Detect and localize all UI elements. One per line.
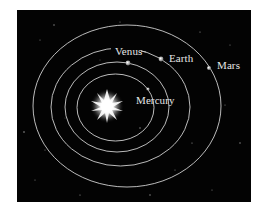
planet-mars (207, 66, 211, 70)
planet-earth (159, 57, 164, 62)
planet-venus (126, 61, 131, 66)
planet-mercury (146, 87, 149, 90)
label-venus: Venus (115, 46, 142, 57)
label-mercury: Mercury (136, 95, 175, 106)
label-earth: Earth (169, 53, 193, 64)
solar-system-diagram: Venus Earth Mars Mercury (17, 10, 251, 202)
sun-star-burst-icon (90, 89, 124, 123)
label-mars: Mars (217, 60, 240, 71)
orbit-diagram-graphic (17, 10, 251, 202)
